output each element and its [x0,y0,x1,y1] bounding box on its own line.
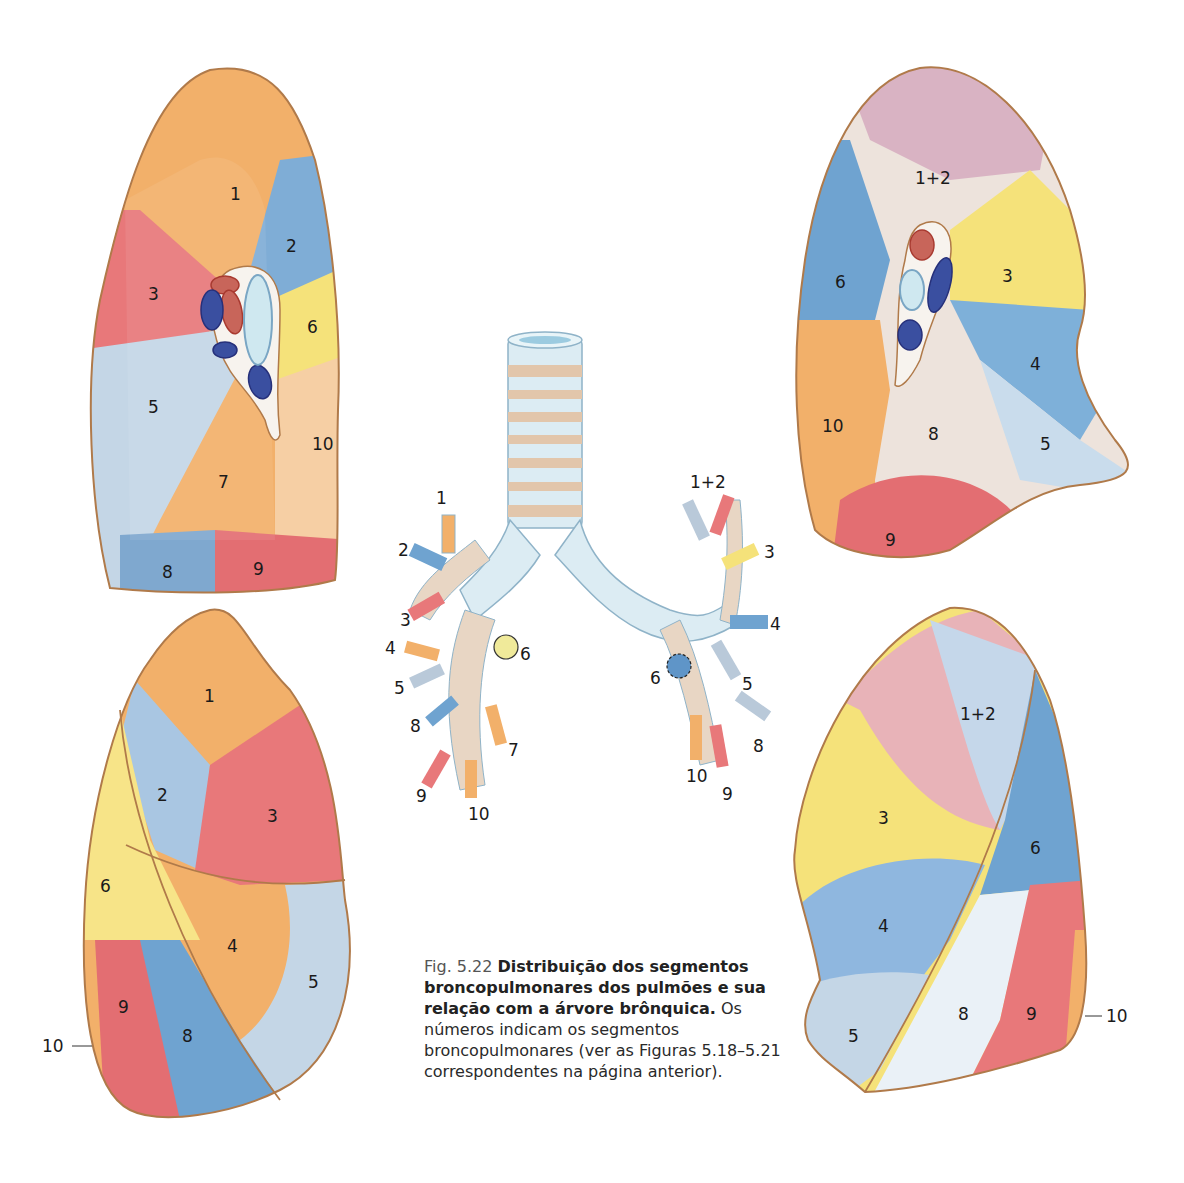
segment-label-3: 3 [148,284,159,304]
bronchus-label-r1: 1 [436,488,447,508]
bronchus-label-r6: 6 [520,644,531,664]
segment-label-8: 8 [958,1004,969,1024]
segment-label-10: 10 [312,434,334,454]
bronchus-label-l3: 3 [764,542,775,562]
right-lung-medial-view: 1 2 3 6 5 10 7 8 9 [80,60,360,600]
bronchus-label-l5: 5 [742,674,753,694]
segment-label-9: 9 [118,997,129,1017]
segment-label-7: 7 [218,472,229,492]
segment-label-5: 5 [148,397,159,417]
segment-label-10: 10 [822,416,844,436]
bronchus-label-r5: 5 [394,678,405,698]
bronchus-label-l6: 6 [650,668,661,688]
segment-label-6: 6 [835,272,846,292]
right-lung-lateral-view: 1 2 3 6 4 5 9 8 10 [40,600,380,1140]
segment-label-9: 9 [885,530,896,550]
segment-label-9: 9 [253,559,264,579]
segment-label-3: 3 [1002,266,1013,286]
segment-label-1-2: 1+2 [960,704,996,724]
bronchus-label-l9: 9 [722,784,733,804]
segment-label-5: 5 [308,972,319,992]
segment-label-4: 4 [227,936,238,956]
segment-label-2: 2 [157,785,168,805]
segment-label-10: 10 [1106,1006,1128,1026]
bronchus-label-r7: 7 [508,740,519,760]
segment-label-1-2: 1+2 [915,168,951,188]
figure-caption: Fig. 5.22 Distribuição dos segmentos bro… [424,956,784,1082]
bronchus-label-r2: 2 [398,540,409,560]
segment-label-4: 4 [878,916,889,936]
left-lung-medial-view: 1+2 3 6 4 10 8 5 9 [780,60,1140,580]
segment-label-6: 6 [307,317,318,337]
segment-label-8: 8 [162,562,173,582]
bronchial-tree: 1 2 3 4 5 6 8 7 9 10 1+2 3 4 6 5 8 10 9 [380,320,800,840]
figure-number: Fig. 5.22 [424,957,492,976]
bronchus-r1 [442,515,455,553]
left-lung-lateral-view: 1+2 3 6 4 8 9 10 5 [780,600,1140,1100]
segment-label-9: 9 [1026,1004,1037,1024]
bronchus-label-r3: 3 [400,610,411,630]
segment-label-5: 5 [1040,434,1051,454]
segment-label-1: 1 [204,686,215,706]
segment-label-8: 8 [928,424,939,444]
segment-label-5: 5 [848,1026,859,1046]
segment-label-4: 4 [1030,354,1041,374]
bronchus-label-l1-2: 1+2 [690,472,726,492]
segment-label-6: 6 [100,876,111,896]
bronchus-label-l10: 10 [686,766,708,786]
bronchus-label-r9: 9 [416,786,427,806]
segment-label-3: 3 [878,808,889,828]
segment-label-6: 6 [1030,838,1041,858]
bronchus-label-r8: 8 [410,716,421,736]
segment-label-3: 3 [267,806,278,826]
segment-label-2: 2 [286,236,297,256]
bronchus-label-r4: 4 [385,638,396,658]
segment-label-10: 10 [42,1036,64,1056]
segment-label-1: 1 [230,184,241,204]
bronchus-label-r10: 10 [468,804,490,824]
bronchus-label-l8: 8 [753,736,764,756]
segment-label-8: 8 [182,1026,193,1046]
